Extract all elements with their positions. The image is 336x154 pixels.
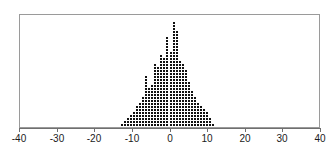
dot-marker: [166, 43, 168, 45]
dot-marker: [176, 115, 178, 117]
dot-marker: [173, 94, 175, 96]
dot-marker: [182, 121, 184, 123]
dot-marker: [166, 121, 168, 123]
dot-marker: [173, 28, 175, 30]
dot-marker: [145, 97, 147, 99]
x-axis-tick: [320, 128, 321, 132]
dot-marker: [170, 64, 172, 66]
dot-marker: [157, 73, 159, 75]
dot-marker: [160, 109, 162, 111]
dot-marker: [179, 88, 181, 90]
dot-marker: [145, 121, 147, 123]
dot-marker: [188, 85, 190, 87]
dot-marker: [160, 121, 162, 123]
dot-marker: [173, 64, 175, 66]
dot-marker: [194, 103, 196, 105]
dot-marker: [139, 112, 141, 114]
dot-marker: [170, 79, 172, 81]
dot-marker: [197, 103, 199, 105]
dot-marker: [188, 109, 190, 111]
dot-marker: [179, 64, 181, 66]
dot-marker: [157, 97, 159, 99]
dot-marker: [179, 91, 181, 93]
dot-marker: [136, 124, 138, 126]
dot-marker: [142, 103, 144, 105]
x-axis-tick-label: -20: [87, 133, 101, 144]
dot-marker: [173, 118, 175, 120]
dot-marker: [163, 61, 165, 63]
dot-marker: [176, 112, 178, 114]
dot-marker: [154, 106, 156, 108]
dot-marker: [142, 100, 144, 102]
dot-marker: [170, 70, 172, 72]
dot-marker: [157, 115, 159, 117]
dot-marker: [121, 124, 123, 126]
dot-marker: [170, 76, 172, 78]
dot-marker: [176, 49, 178, 51]
dot-marker: [203, 115, 205, 117]
dot-marker: [170, 88, 172, 90]
dot-marker: [154, 115, 156, 117]
dot-marker: [176, 91, 178, 93]
dot-marker: [163, 112, 165, 114]
dot-marker: [148, 124, 150, 126]
dot-marker: [173, 40, 175, 42]
dot-marker: [163, 100, 165, 102]
dot-marker: [206, 112, 208, 114]
dot-marker: [148, 112, 150, 114]
x-axis-tick: [132, 128, 133, 132]
dot-marker: [142, 109, 144, 111]
dot-marker: [163, 94, 165, 96]
dot-marker: [185, 88, 187, 90]
dot-marker: [170, 118, 172, 120]
x-axis-tick-label: 10: [201, 133, 212, 144]
dot-marker: [179, 106, 181, 108]
dot-marker: [176, 52, 178, 54]
dot-marker: [157, 76, 159, 78]
dot-marker: [160, 76, 162, 78]
dot-marker: [176, 76, 178, 78]
dot-marker: [182, 115, 184, 117]
dot-marker: [145, 124, 147, 126]
dot-marker: [200, 109, 202, 111]
dot-marker: [163, 82, 165, 84]
dot-marker: [151, 112, 153, 114]
dot-marker: [206, 121, 208, 123]
dot-marker: [188, 124, 190, 126]
dot-marker: [185, 91, 187, 93]
dot-marker: [194, 106, 196, 108]
dot-marker: [173, 49, 175, 51]
dot-marker: [173, 52, 175, 54]
dot-marker: [133, 121, 135, 123]
dot-marker: [142, 118, 144, 120]
dot-marker: [179, 73, 181, 75]
dot-marker: [188, 82, 190, 84]
dot-marker: [154, 64, 156, 66]
dot-marker: [191, 91, 193, 93]
dot-marker: [154, 70, 156, 72]
dot-marker: [145, 85, 147, 87]
dot-marker: [163, 103, 165, 105]
dot-marker: [151, 115, 153, 117]
dot-marker: [179, 109, 181, 111]
x-axis-tick: [57, 128, 58, 132]
dot-marker: [166, 76, 168, 78]
dot-marker: [148, 88, 150, 90]
dot-marker: [163, 121, 165, 123]
dot-marker: [185, 94, 187, 96]
dot-marker: [173, 124, 175, 126]
dot-marker: [176, 121, 178, 123]
dot-marker: [197, 115, 199, 117]
dot-marker: [182, 124, 184, 126]
dot-marker: [179, 121, 181, 123]
dot-marker: [200, 115, 202, 117]
dot-marker: [154, 79, 156, 81]
dot-marker: [185, 70, 187, 72]
dot-marker: [166, 49, 168, 51]
dot-marker: [197, 121, 199, 123]
dot-marker: [203, 124, 205, 126]
dot-marker: [142, 121, 144, 123]
dot-marker: [145, 79, 147, 81]
dot-marker: [170, 82, 172, 84]
dot-marker: [170, 85, 172, 87]
